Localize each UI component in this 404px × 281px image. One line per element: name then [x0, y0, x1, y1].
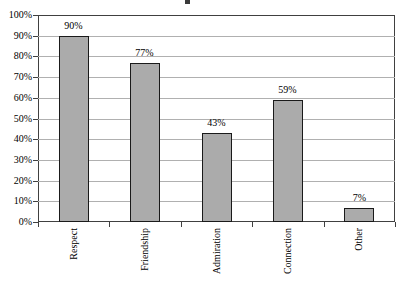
y-tick-40: [33, 139, 38, 140]
y-tick-70: [33, 77, 38, 78]
bar-friendship: [130, 63, 160, 222]
y-axis-label-90: 90%: [0, 30, 32, 42]
bar-other: [344, 208, 374, 222]
y-tick-90: [33, 36, 38, 37]
y-axis-label-80: 80%: [0, 50, 32, 62]
y-axis-label-100: 100%: [0, 9, 32, 21]
value-label-admiration: 43%: [181, 117, 252, 129]
x-axis-label-admiration: Admiration: [211, 228, 223, 274]
x-axis-label-connection: Connection: [282, 228, 294, 274]
value-label-other: 7%: [324, 192, 395, 204]
bar-respect: [59, 36, 89, 222]
x-axis-label-respect: Respect: [68, 228, 80, 260]
x-tick-0: [38, 222, 39, 227]
value-label-connection: 59%: [252, 84, 323, 96]
y-tick-60: [33, 98, 38, 99]
y-axis-label-50: 50%: [0, 113, 32, 125]
y-axis-label-30: 30%: [0, 154, 32, 166]
x-tick-4: [324, 222, 325, 227]
x-axis-label-other: Other: [353, 228, 365, 251]
bar-chart: 0%10%20%30%40%50%60%70%80%90%100% 90%Res…: [0, 0, 404, 281]
gridline-60: [38, 98, 395, 99]
y-tick-20: [33, 181, 38, 182]
y-axis-label-40: 40%: [0, 133, 32, 145]
y-axis-label-60: 60%: [0, 92, 32, 104]
bar-admiration: [202, 133, 232, 222]
y-tick-10: [33, 201, 38, 202]
y-axis-label-20: 20%: [0, 175, 32, 187]
y-axis-label-70: 70%: [0, 71, 32, 83]
y-tick-30: [33, 160, 38, 161]
x-tick-2: [181, 222, 182, 227]
y-tick-100: [33, 15, 38, 16]
gridline-70: [38, 77, 395, 78]
x-axis-label-friendship: Friendship: [139, 228, 151, 271]
value-label-friendship: 77%: [109, 47, 180, 59]
x-tick-3: [252, 222, 253, 227]
cropped-title-fragment: [185, 0, 190, 4]
y-tick-80: [33, 56, 38, 57]
gridline-90: [38, 36, 395, 37]
bar-connection: [273, 100, 303, 222]
x-tick-1: [109, 222, 110, 227]
y-tick-50: [33, 119, 38, 120]
y-axis-label-0: 0%: [0, 216, 32, 228]
y-axis-label-10: 10%: [0, 195, 32, 207]
value-label-respect: 90%: [38, 20, 109, 32]
gridline-80: [38, 56, 395, 57]
x-tick-5: [395, 222, 396, 227]
